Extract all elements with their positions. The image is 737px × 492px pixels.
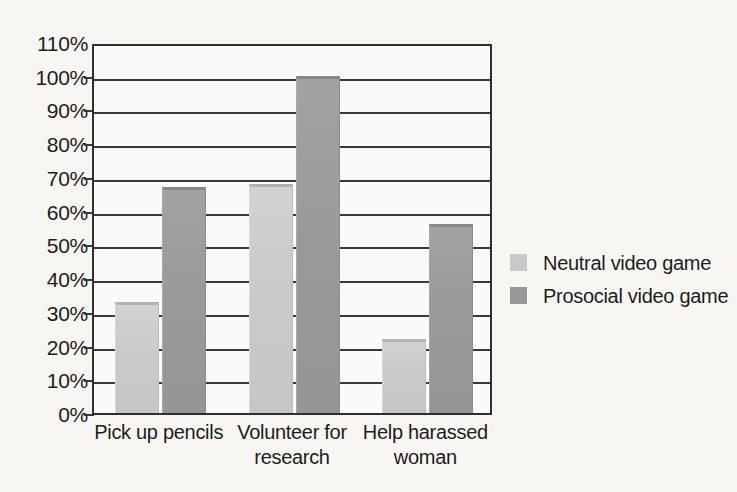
gridline xyxy=(94,180,490,182)
bar xyxy=(429,224,473,413)
y-tick-label: 10% xyxy=(0,370,88,391)
gridline xyxy=(94,112,490,114)
x-tick-label-line: Pick up pencils xyxy=(92,420,225,445)
x-tick-label-line: Volunteer for xyxy=(225,420,358,445)
y-tick-label: 70% xyxy=(0,168,88,189)
gridline xyxy=(94,79,490,81)
legend-swatch-prosocial xyxy=(510,287,527,304)
x-tick-label-line: Help harassed xyxy=(359,420,492,445)
bar xyxy=(115,302,159,413)
bar xyxy=(249,184,293,413)
x-tick-label: Pick up pencils xyxy=(92,420,225,445)
y-tick-label: 30% xyxy=(0,303,88,324)
y-tick-label: 40% xyxy=(0,269,88,290)
bar xyxy=(162,187,206,413)
chart-legend: Neutral video gameProsocial video game xyxy=(510,246,725,312)
legend-label: Neutral video game xyxy=(543,252,711,274)
legend-swatch-neutral xyxy=(510,254,527,271)
gridline xyxy=(94,146,490,148)
legend-item: Prosocial video game xyxy=(510,279,725,312)
y-axis: 110%100%90%80%70%60%50%40%30%20%10%0% xyxy=(0,44,88,415)
y-tick-label: 100% xyxy=(0,67,88,88)
bar xyxy=(382,339,426,413)
y-tick-label: 0% xyxy=(0,404,88,425)
legend-label: Prosocial video game xyxy=(543,285,728,307)
x-tick-label: Help harassedwoman xyxy=(359,420,492,470)
y-tick-label: 60% xyxy=(0,202,88,223)
x-tick-label: Volunteer forresearch xyxy=(225,420,358,470)
legend-item: Neutral video game xyxy=(510,246,725,279)
y-tick-label: 110% xyxy=(0,33,88,54)
x-tick-label-line: research xyxy=(225,445,358,470)
y-tick-label: 90% xyxy=(0,100,88,121)
x-tick-label-line: woman xyxy=(359,445,492,470)
bar xyxy=(296,76,340,413)
bar-chart-figure: 110%100%90%80%70%60%50%40%30%20%10%0% Pi… xyxy=(0,0,737,492)
x-axis: Pick up pencilsVolunteer forresearchHelp… xyxy=(92,420,492,490)
y-tick-label: 20% xyxy=(0,337,88,358)
y-tick-label: 50% xyxy=(0,235,88,256)
plot-area xyxy=(92,44,492,415)
y-tick-label: 80% xyxy=(0,134,88,155)
